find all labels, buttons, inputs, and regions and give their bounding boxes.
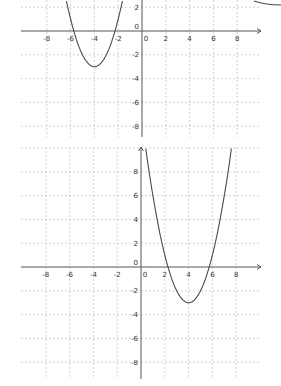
x-tick-label: 6 bbox=[211, 35, 216, 43]
x-tick-label: -4 bbox=[91, 35, 99, 43]
x-tick-label: 8 bbox=[234, 271, 238, 279]
y-tick-label: 8 bbox=[134, 168, 138, 176]
y-tick-label: -8 bbox=[131, 359, 138, 367]
x-tick-label: 4 bbox=[187, 35, 192, 43]
y-tick-label: -6 bbox=[132, 99, 140, 107]
x-tick-label: 8 bbox=[235, 35, 239, 43]
y-tick-label: -4 bbox=[132, 75, 140, 83]
y-tick-label: 2 bbox=[135, 4, 139, 12]
y-tick-label: -6 bbox=[131, 335, 139, 343]
y-tick-label: 6 bbox=[134, 192, 139, 200]
y-tick-label: 0 bbox=[134, 259, 138, 267]
y-tick-label: 0 bbox=[135, 23, 139, 31]
partial-curve-top-right bbox=[254, 1, 281, 5]
y-tick-label: -8 bbox=[132, 123, 139, 131]
x-tick-label: 0 bbox=[144, 35, 148, 43]
y-tick-label: 2 bbox=[134, 240, 138, 248]
x-tick-label: -2 bbox=[115, 35, 122, 43]
x-tick-label: 4 bbox=[186, 271, 191, 279]
x-tick-label: -6 bbox=[66, 271, 74, 279]
y-tick-label: 4 bbox=[134, 216, 139, 224]
bottom-chart: -8-6-4-20246886420-2-4-6-8 bbox=[21, 147, 261, 379]
x-tick-label: -2 bbox=[114, 271, 121, 279]
x-tick-label: -4 bbox=[90, 271, 98, 279]
graph-canvas: -8-6-4-20246820-2-4-6-8 -8-6-4-202468864… bbox=[0, 0, 281, 386]
top-chart: -8-6-4-20246820-2-4-6-8 bbox=[21, 0, 261, 137]
x-tick-label: -8 bbox=[43, 35, 50, 43]
x-tick-label: 0 bbox=[143, 271, 147, 279]
x-tick-label: -6 bbox=[67, 35, 75, 43]
x-tick-label: 2 bbox=[163, 271, 167, 279]
x-tick-label: 2 bbox=[164, 35, 168, 43]
y-tick-label: -2 bbox=[131, 287, 138, 295]
y-tick-label: -2 bbox=[132, 51, 139, 59]
y-tick-label: -4 bbox=[131, 311, 139, 319]
x-tick-label: 6 bbox=[210, 271, 215, 279]
x-tick-label: -8 bbox=[42, 271, 49, 279]
